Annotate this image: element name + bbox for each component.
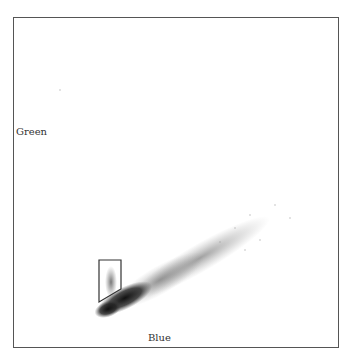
x-axis-label: Blue — [148, 332, 171, 343]
scatter-plot — [0, 0, 353, 362]
y-axis-label: Green — [16, 126, 47, 137]
population-main — [92, 206, 276, 322]
population-gated — [105, 266, 117, 298]
